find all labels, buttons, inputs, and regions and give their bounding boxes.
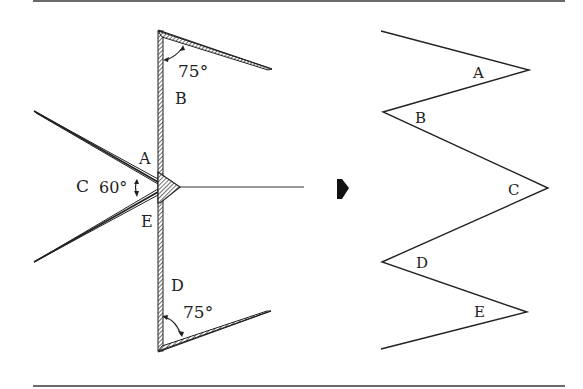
label-D-right: D	[416, 254, 428, 272]
folded-strip	[34, 30, 304, 352]
fold-diagram: 75° B A C 60° E D 75° A B C D E	[0, 0, 583, 389]
label-B-right: B	[415, 109, 426, 127]
label-D-left: D	[171, 276, 184, 295]
bottom-angle-arc	[164, 317, 181, 335]
right-arrow-icon	[337, 179, 349, 199]
angle-label-middle: 60°	[99, 178, 127, 197]
label-E-left: E	[141, 212, 153, 231]
label-E-right: E	[474, 303, 485, 321]
label-A-left: A	[138, 149, 151, 168]
top-arm	[158, 31, 272, 70]
angle-label-top: 75°	[178, 61, 208, 81]
label-C-left: C	[76, 176, 89, 196]
label-A-right: A	[472, 64, 484, 82]
label-B-left: B	[175, 89, 187, 108]
unfolded-zigzag	[381, 31, 548, 349]
angle-label-bottom: 75°	[183, 302, 213, 322]
hinge-block	[158, 172, 180, 203]
label-C-right: C	[508, 181, 519, 199]
